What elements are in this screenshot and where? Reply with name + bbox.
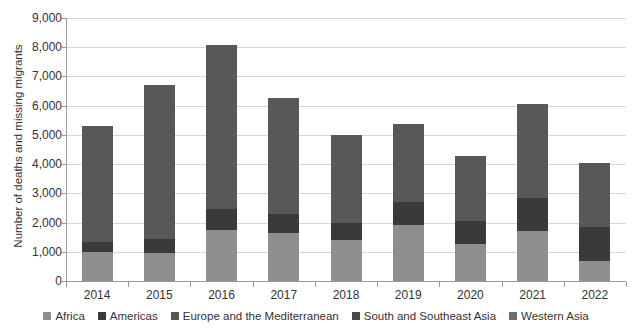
legend-label: Western Asia bbox=[521, 310, 589, 322]
bar-segment[interactable] bbox=[393, 225, 424, 281]
y-tick-label: 5,000 bbox=[4, 128, 62, 142]
x-tick-mark bbox=[253, 282, 254, 287]
bar-group[interactable] bbox=[206, 18, 237, 281]
bar-segment[interactable] bbox=[579, 261, 610, 281]
y-tick-label: 7,000 bbox=[4, 69, 62, 83]
x-tick-mark bbox=[315, 282, 316, 287]
bar-segment[interactable] bbox=[82, 252, 113, 281]
bar-stack[interactable] bbox=[579, 163, 610, 281]
bar-segment[interactable] bbox=[268, 214, 299, 233]
bar-segment[interactable] bbox=[206, 209, 237, 229]
cropped-title-sliver bbox=[80, 0, 600, 5]
bar-segment[interactable] bbox=[331, 223, 362, 241]
bar-segment[interactable] bbox=[517, 198, 548, 232]
x-tick-label: 2015 bbox=[146, 288, 173, 302]
legend-swatch-icon bbox=[98, 312, 106, 320]
bar-group[interactable] bbox=[517, 18, 548, 281]
x-tick-mark bbox=[439, 282, 440, 287]
bar-segment[interactable] bbox=[393, 202, 424, 225]
x-tick-label: 2016 bbox=[208, 288, 235, 302]
legend-item[interactable]: Africa bbox=[43, 310, 84, 322]
bar-group[interactable] bbox=[144, 18, 175, 281]
bar-segment[interactable] bbox=[206, 45, 237, 210]
y-axis-ticks: 01,0002,0003,0004,0005,0006,0007,0008,00… bbox=[0, 0, 62, 334]
x-tick-mark bbox=[128, 282, 129, 287]
bar-stack[interactable] bbox=[331, 135, 362, 281]
y-tick-label: 6,000 bbox=[4, 99, 62, 113]
legend-label: Americas bbox=[110, 310, 158, 322]
bar-segment[interactable] bbox=[579, 163, 610, 227]
bar-segment[interactable] bbox=[579, 227, 610, 261]
legend-swatch-icon bbox=[171, 312, 179, 320]
bar-segment[interactable] bbox=[455, 156, 486, 221]
bar-segment[interactable] bbox=[144, 85, 175, 238]
x-tick-mark bbox=[190, 282, 191, 287]
x-axis-labels: 201420152016201720182019202020212022 bbox=[66, 282, 626, 304]
bar-group[interactable] bbox=[331, 18, 362, 281]
y-tick-label: 1,000 bbox=[4, 245, 62, 259]
x-tick-mark bbox=[66, 282, 67, 287]
y-tick-label: 9,000 bbox=[4, 11, 62, 25]
x-tick-mark bbox=[626, 282, 627, 287]
stacked-bar-chart: Number of deaths and missing migrants 01… bbox=[0, 0, 632, 334]
legend-label: Africa bbox=[55, 310, 84, 322]
x-tick-mark bbox=[502, 282, 503, 287]
bar-group[interactable] bbox=[82, 18, 113, 281]
bar-segment[interactable] bbox=[82, 242, 113, 252]
x-tick-mark bbox=[564, 282, 565, 287]
bar-group[interactable] bbox=[393, 18, 424, 281]
bar-stack[interactable] bbox=[144, 85, 175, 281]
bar-segment[interactable] bbox=[517, 231, 548, 281]
legend-item[interactable]: Europe and the Mediterranean bbox=[171, 310, 339, 322]
bar-segment[interactable] bbox=[82, 126, 113, 243]
x-tick-label: 2019 bbox=[395, 288, 422, 302]
legend-item[interactable]: South and Southeast Asia bbox=[352, 310, 496, 322]
bar-segment[interactable] bbox=[331, 135, 362, 222]
legend-item[interactable]: Western Asia bbox=[509, 310, 589, 322]
bar-stack[interactable] bbox=[206, 45, 237, 281]
legend-swatch-icon bbox=[509, 312, 517, 320]
x-tick-mark bbox=[377, 282, 378, 287]
bar-group[interactable] bbox=[579, 18, 610, 281]
x-tick-label: 2014 bbox=[84, 288, 111, 302]
bar-stack[interactable] bbox=[82, 126, 113, 281]
legend-label: South and Southeast Asia bbox=[364, 310, 496, 322]
bar-stack[interactable] bbox=[455, 156, 486, 281]
y-tick-label: 4,000 bbox=[4, 157, 62, 171]
bar-segment[interactable] bbox=[517, 104, 548, 198]
x-tick-label: 2017 bbox=[270, 288, 297, 302]
legend-item[interactable]: Americas bbox=[98, 310, 158, 322]
x-tick-label: 2021 bbox=[519, 288, 546, 302]
bar-stack[interactable] bbox=[268, 98, 299, 281]
legend-label: Europe and the Mediterranean bbox=[183, 310, 339, 322]
bar-segment[interactable] bbox=[331, 240, 362, 281]
y-tick-label: 2,000 bbox=[4, 216, 62, 230]
bar-stack[interactable] bbox=[393, 124, 424, 281]
bar-group[interactable] bbox=[268, 18, 299, 281]
bar-stack[interactable] bbox=[517, 104, 548, 281]
y-tick-label: 0 bbox=[4, 274, 62, 288]
x-tick-label: 2022 bbox=[582, 288, 609, 302]
y-tick-label: 3,000 bbox=[4, 186, 62, 200]
x-tick-label: 2018 bbox=[333, 288, 360, 302]
x-tick-label: 2020 bbox=[457, 288, 484, 302]
bar-segment[interactable] bbox=[268, 98, 299, 214]
bar-group[interactable] bbox=[455, 18, 486, 281]
bar-segment[interactable] bbox=[455, 244, 486, 281]
bar-segment[interactable] bbox=[144, 239, 175, 254]
legend-swatch-icon bbox=[352, 312, 360, 320]
legend-swatch-icon bbox=[43, 312, 51, 320]
bars-layer bbox=[66, 18, 626, 281]
bar-segment[interactable] bbox=[455, 221, 486, 244]
chart-legend: AfricaAmericasEurope and the Mediterrane… bbox=[0, 310, 632, 322]
bar-segment[interactable] bbox=[268, 233, 299, 281]
bar-segment[interactable] bbox=[144, 253, 175, 281]
bar-segment[interactable] bbox=[206, 230, 237, 281]
bar-segment[interactable] bbox=[393, 124, 424, 203]
y-tick-label: 8,000 bbox=[4, 40, 62, 54]
